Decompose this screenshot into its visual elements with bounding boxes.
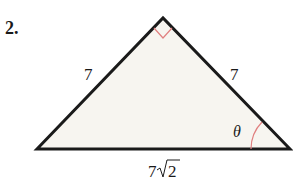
triangle-diagram: 2. 7 7 θ 7 2 xyxy=(0,0,293,185)
problem-number: 2. xyxy=(5,18,19,38)
left-side-label: 7 xyxy=(84,65,93,84)
right-side-label: 7 xyxy=(230,65,239,84)
base-label-coefficient: 7 xyxy=(148,162,157,181)
base-label: 7 2 xyxy=(148,160,180,181)
base-label-radicand: 2 xyxy=(168,162,177,181)
angle-label: θ xyxy=(233,123,241,140)
